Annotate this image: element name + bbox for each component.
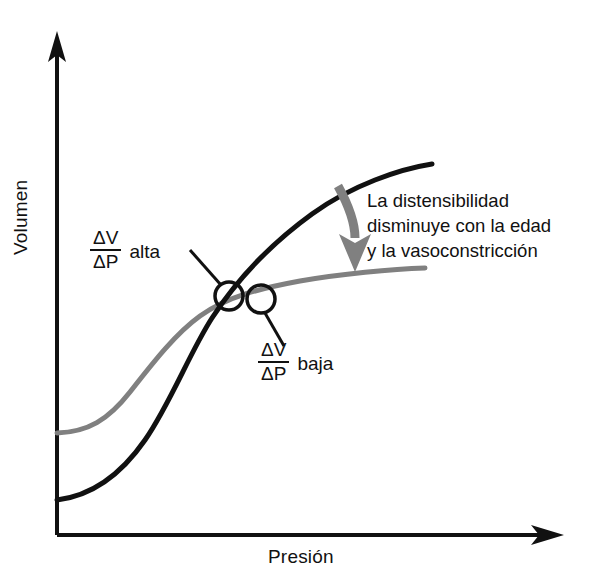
fraction-delta-v-delta-p-low: ΔV ΔP: [258, 340, 289, 384]
annotation-line-1: La distensibilidad: [367, 188, 551, 213]
plot-canvas: [0, 0, 607, 582]
label-compliance-high-word: alta: [129, 237, 160, 263]
leader-line-alta: [190, 250, 221, 285]
fraction-denominator: ΔP: [258, 363, 289, 384]
label-compliance-low: ΔV ΔP baja: [258, 340, 333, 384]
fraction-numerator: ΔV: [258, 340, 289, 363]
compliance-curve-figure: Volumen Presión ΔV ΔP alta ΔV ΔP baja La…: [0, 0, 607, 582]
y-axis-label: Volumen: [10, 180, 32, 255]
annotation-text-block: La distensibilidad disminuye con la edad…: [367, 188, 551, 263]
fraction-denominator: ΔP: [90, 251, 121, 272]
fraction-numerator: ΔV: [90, 228, 121, 251]
y-axis-label-wrapper: Volumen: [6, 115, 36, 255]
annotation-line-3: y la vasoconstricción: [367, 238, 551, 263]
fraction-delta-v-delta-p-high: ΔV ΔP: [90, 228, 121, 272]
label-compliance-high: ΔV ΔP alta: [90, 228, 160, 272]
label-compliance-low-word: baja: [297, 349, 333, 375]
x-axis-label: Presión: [268, 546, 334, 568]
annotation-line-2: disminuye con la edad: [367, 213, 551, 238]
curved-down-arrow-shaft: [338, 186, 355, 238]
